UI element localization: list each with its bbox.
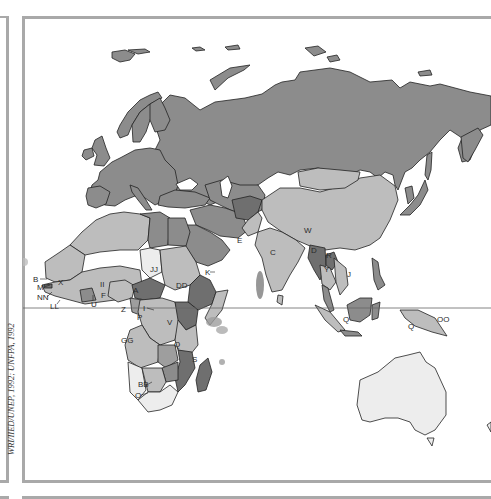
- label-W: W: [304, 226, 312, 235]
- label-C: C: [270, 248, 276, 257]
- philippines: [372, 258, 385, 290]
- label-A: A: [133, 286, 139, 295]
- label-NN: NN: [37, 293, 49, 302]
- label-K: K: [205, 268, 211, 277]
- franz-josef: [192, 47, 205, 51]
- mauritius: [219, 359, 225, 365]
- label-F: F: [101, 291, 106, 300]
- label-V: V: [167, 318, 173, 327]
- sulawesi: [372, 302, 380, 320]
- label-Y: Y: [324, 265, 330, 274]
- label-LL: LL: [50, 302, 59, 311]
- label-D: D: [311, 246, 317, 255]
- label-M: M: [37, 283, 44, 292]
- severnaya-2: [327, 55, 340, 62]
- map-panel: E W X JJ DD K F II A B M NN LL U Z I P V…: [23, 17, 491, 482]
- australia: [357, 352, 446, 435]
- label-S: S: [192, 355, 197, 364]
- label-Z: Z: [121, 305, 126, 314]
- borneo: [347, 298, 372, 322]
- madagascar-S: [196, 358, 212, 392]
- label-U: U: [91, 300, 97, 309]
- severnaya: [305, 46, 326, 56]
- label-DD: DD: [176, 281, 188, 290]
- label-X: X: [58, 278, 64, 287]
- sakhalin: [425, 152, 432, 180]
- left-panel-bottom-border: [0, 480, 9, 483]
- new-siberian: [418, 70, 432, 76]
- sri-lanka: [277, 295, 283, 305]
- label-Q-newguinea: Q: [408, 322, 414, 331]
- label-GG: GG: [121, 336, 133, 345]
- franz-josef-2: [225, 45, 240, 50]
- new-zealand: [487, 422, 491, 432]
- north-africa-west: [70, 212, 150, 255]
- source-credit: WRI/IIED/UNEP, 1992; UNFPA, 1992: [6, 323, 16, 455]
- ireland: [82, 148, 94, 160]
- label-II: II: [100, 280, 104, 289]
- world-map: E W X JJ DD K F II A B M NN LL U Z I P V…: [23, 17, 491, 482]
- java: [340, 330, 362, 336]
- label-O: O: [135, 391, 141, 400]
- label-Q-indonesia: Q: [343, 315, 349, 324]
- maldives: [256, 271, 264, 299]
- novaya-zemlya: [210, 65, 250, 90]
- label-JJ: JJ: [150, 265, 158, 274]
- mascarene: [216, 326, 228, 334]
- left-panel-top-border: [0, 16, 9, 18]
- label-OO: OO: [437, 315, 449, 324]
- egypt: [168, 218, 190, 246]
- great-britain: [92, 136, 110, 166]
- label-I: I: [143, 304, 145, 313]
- cape-verde: [23, 258, 28, 266]
- tasmania: [427, 438, 434, 446]
- seychelles: [206, 317, 222, 327]
- label-Q-africa: Q: [174, 340, 180, 349]
- label-R: R: [326, 251, 332, 260]
- gambia-senegal-B: [44, 284, 52, 288]
- label-E: E: [237, 236, 242, 245]
- vietnam: [334, 258, 348, 295]
- label-J: J: [347, 270, 351, 279]
- label-P: P: [137, 313, 142, 322]
